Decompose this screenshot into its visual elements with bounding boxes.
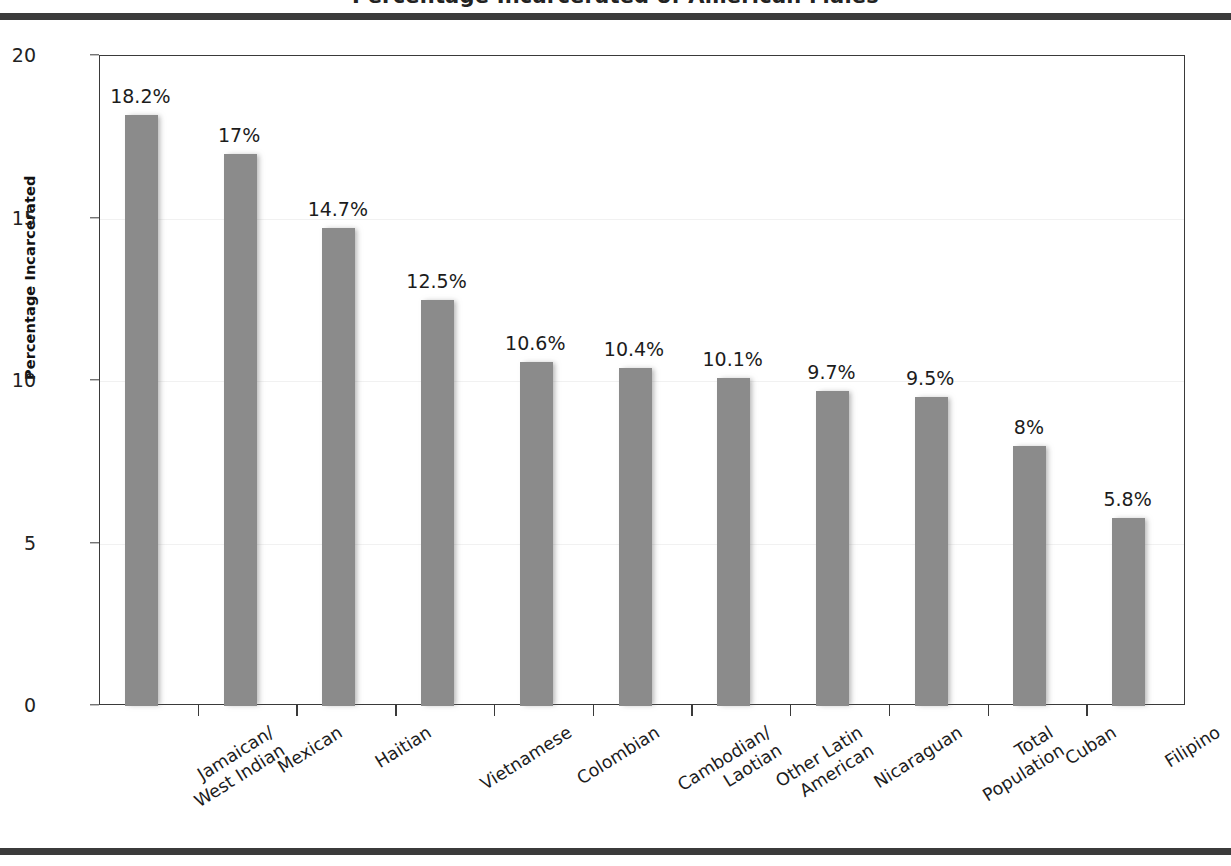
bar-value-label: 9.5% [870, 367, 990, 389]
x-axis-category-label: Colombian [573, 722, 663, 790]
x-axis-category-label: TotalPopulation [968, 722, 1069, 807]
bar-value-label: 17% [179, 124, 299, 146]
x-axis-category-label: Cambodian/Laotian [674, 722, 786, 814]
bar [125, 115, 158, 707]
y-axis-tick-label: 0 [0, 694, 36, 716]
bar-value-label: 5.8% [1068, 488, 1188, 510]
y-axis-tick-mark [90, 542, 99, 543]
y-axis-tick-label: 10 [0, 369, 36, 391]
x-axis-tick-mark [395, 705, 396, 716]
bar-value-label: 12.5% [377, 270, 497, 292]
y-axis-tick-mark [90, 379, 99, 380]
x-axis-category-label-line: Filipino [1161, 722, 1224, 773]
gridline [100, 219, 1184, 220]
bar [1013, 446, 1046, 706]
x-axis-category-label-line: Haitian [371, 722, 435, 773]
y-axis-tick-mark [90, 217, 99, 218]
x-axis-category-label-line: Nicaraguan [871, 722, 967, 793]
x-axis-category-label: Vietnamese [476, 722, 575, 795]
bar [816, 391, 849, 706]
x-axis-category-label: Nicaraguan [871, 722, 967, 793]
bottom-rule [0, 848, 1231, 855]
x-axis-category-label: Haitian [371, 722, 435, 773]
y-axis-tick-mark [90, 54, 99, 55]
x-axis-category-label: Other LatinAmerican [772, 722, 878, 810]
bar-value-label: 18.2% [80, 85, 200, 107]
bar [421, 300, 454, 706]
bar [717, 378, 750, 706]
x-axis-tick-mark [198, 705, 199, 716]
x-axis-category-label-line: Vietnamese [476, 722, 575, 795]
bar [322, 228, 355, 706]
plot-area [99, 55, 1185, 705]
y-axis-tick-label: 15 [0, 207, 36, 229]
x-axis-tick-mark [988, 705, 989, 716]
bar [224, 154, 257, 707]
bar [520, 362, 553, 707]
bar [619, 368, 652, 706]
bar [915, 397, 948, 706]
page-title: Percentage Incarcerated of American Male… [0, 0, 1231, 8]
bar [1112, 518, 1145, 707]
top-rule [0, 13, 1231, 20]
y-axis-tick-label: 20 [0, 44, 36, 66]
page-title-clipped: Percentage Incarcerated of American Male… [0, 0, 1231, 13]
x-axis-category-label: Cuban [1061, 722, 1120, 770]
y-axis-tick-label: 5 [0, 532, 36, 554]
x-axis-tick-mark [889, 705, 890, 716]
x-axis-category-label-line: Cuban [1061, 722, 1120, 770]
x-axis-tick-mark [593, 705, 594, 716]
x-axis-category-label: Jamaican/West Indian [180, 722, 290, 813]
x-axis-category-label: Mexican [274, 722, 347, 778]
x-axis-tick-mark [1086, 705, 1087, 716]
x-axis-tick-mark [296, 705, 297, 716]
x-axis-tick-mark [494, 705, 495, 716]
x-axis-tick-mark [691, 705, 692, 716]
x-axis-category-label-line: Colombian [573, 722, 663, 790]
bar-value-label: 14.7% [278, 198, 398, 220]
bar-value-label: 8% [969, 416, 1089, 438]
x-axis-category-label: Filipino [1161, 722, 1224, 773]
chart-page: Percentage Incarcerated of American Male… [0, 0, 1231, 866]
y-axis-tick-mark [90, 704, 99, 705]
x-axis-category-label-line: Mexican [274, 722, 347, 778]
x-axis-tick-mark [790, 705, 791, 716]
